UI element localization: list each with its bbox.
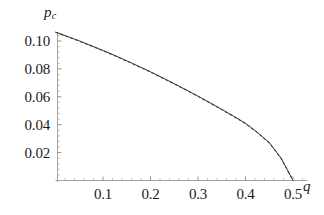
y-tick-label-0.06: 0.06 <box>0 88 50 105</box>
y-tick-label-0.08: 0.08 <box>0 60 50 77</box>
y-axis-title: pc <box>44 4 56 21</box>
y-axis-title-text: p <box>44 4 52 20</box>
x-tick-label-0.5: 0.5 <box>284 186 302 203</box>
y-tick-label-0.10: 0.10 <box>0 33 50 50</box>
y-axis-title-subscript: c <box>52 10 56 21</box>
x-tick-label-0.2: 0.2 <box>141 186 159 203</box>
y-tick-label-0.02: 0.02 <box>0 144 50 161</box>
x-tick-label-0.4: 0.4 <box>236 186 254 203</box>
data-curve-dashed <box>56 32 294 180</box>
plot-figure: pc q 0.02 0.04 0.06 0.08 0.10 0.1 0.2 0.… <box>0 0 324 215</box>
x-tick-label-0.1: 0.1 <box>94 186 112 203</box>
x-tick-label-0.3: 0.3 <box>189 186 207 203</box>
x-axis-title: q <box>303 178 311 195</box>
y-tick-label-0.04: 0.04 <box>0 116 50 133</box>
data-curve-solid <box>56 32 294 180</box>
